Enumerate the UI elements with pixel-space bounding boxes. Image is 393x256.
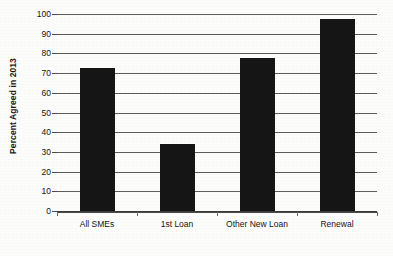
y-tick-label-20: 20 bbox=[42, 167, 51, 177]
bar-chart-figure: Percent Agreed in 2013 01020304050607080… bbox=[0, 0, 393, 256]
x-tick-label-1st-loan: 1st Loan bbox=[161, 219, 194, 229]
x-tick-label-renewal: Renewal bbox=[320, 219, 353, 229]
y-tick-mark-100 bbox=[52, 14, 57, 15]
y-axis-title-label: Percent Agreed in 2013 bbox=[8, 58, 18, 154]
x-tick-mark-4 bbox=[377, 212, 378, 216]
x-tick-mark-3 bbox=[297, 212, 298, 216]
x-tick-mark-0 bbox=[57, 212, 58, 216]
y-tick-mark-80 bbox=[52, 53, 57, 54]
y-tick-mark-90 bbox=[52, 34, 57, 35]
y-tick-label-100: 100 bbox=[37, 9, 51, 19]
y-tick-mark-30 bbox=[52, 152, 57, 153]
plot-area bbox=[57, 14, 377, 211]
bar-other-new-loan[interactable] bbox=[240, 58, 275, 211]
y-axis-title: Percent Agreed in 2013 bbox=[0, 0, 26, 212]
bar-renewal[interactable] bbox=[320, 19, 355, 211]
x-tick-mark-1 bbox=[137, 212, 138, 216]
y-axis-tick-labels: 0102030405060708090100 bbox=[26, 0, 55, 256]
y-tick-mark-50 bbox=[52, 113, 57, 114]
x-tick-label-other-new-loan: Other New Loan bbox=[226, 219, 288, 229]
x-tick-mark-2 bbox=[217, 212, 218, 216]
y-tick-label-90: 90 bbox=[42, 29, 51, 39]
y-tick-label-40: 40 bbox=[42, 127, 51, 137]
y-tick-label-0: 0 bbox=[46, 206, 51, 216]
y-tick-mark-60 bbox=[52, 93, 57, 94]
y-tick-mark-20 bbox=[52, 172, 57, 173]
y-tick-label-80: 80 bbox=[42, 48, 51, 58]
bar-all-smes[interactable] bbox=[80, 68, 115, 211]
y-tick-label-60: 60 bbox=[42, 88, 51, 98]
y-tick-mark-10 bbox=[52, 191, 57, 192]
y-tick-mark-40 bbox=[52, 132, 57, 133]
x-tick-label-all-smes: All SMEs bbox=[80, 219, 114, 229]
gridline-100 bbox=[57, 14, 377, 15]
y-tick-label-50: 50 bbox=[42, 108, 51, 118]
bar-1st-loan[interactable] bbox=[160, 144, 195, 211]
y-tick-label-10: 10 bbox=[42, 186, 51, 196]
y-tick-label-70: 70 bbox=[42, 68, 51, 78]
y-tick-label-30: 30 bbox=[42, 147, 51, 157]
y-tick-mark-70 bbox=[52, 73, 57, 74]
